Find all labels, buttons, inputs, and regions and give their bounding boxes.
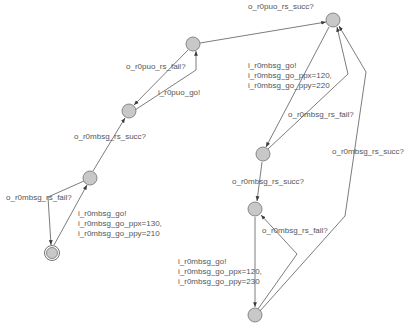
- edge-label-n7-n4: o_r0mbsg_rs_succ?: [332, 147, 404, 157]
- node-n7[interactable]: [248, 308, 262, 322]
- edge-n1-n2[interactable]: [93, 118, 125, 171]
- node-n2[interactable]: [122, 104, 136, 118]
- edge-label-n3-n4: o_r0puo_rs_succ?: [248, 2, 314, 12]
- edge-label-n6-n7: i_r0mbsg_go! i_r0mbsg_go_ppx=120, i_r0mb…: [178, 257, 262, 287]
- edge-label-n1-n2: o_r0mbsg_rs_succ?: [74, 132, 146, 142]
- node-n5[interactable]: [256, 147, 270, 161]
- node-n3[interactable]: [186, 37, 200, 51]
- node-n4[interactable]: [326, 13, 340, 27]
- edge-label-n1-n0: o_r0mbsg_rs_fail?: [6, 193, 72, 203]
- edge-label-n3-n2: o_r0puo_rs_fail?: [126, 62, 186, 72]
- edge-label-n5-n4: o_r0mbsg_rs_fail?: [288, 110, 354, 120]
- node-n0-initial[interactable]: [45, 246, 60, 261]
- edge-label-n5-n6: o_r0mbsg_rs_succ?: [232, 177, 304, 187]
- edge-label-n2-n3: i_r0puo_go!: [158, 88, 200, 98]
- edge-n2-n3[interactable]: [135, 51, 196, 110]
- node-n6[interactable]: [248, 202, 262, 216]
- edge-label-n7-n6: o_r0mbsg_rs_fail?: [262, 226, 328, 236]
- node-n1[interactable]: [83, 171, 97, 185]
- edge-n3-n4[interactable]: [200, 22, 326, 43]
- edge-label-n4-n5: i_r0mbsg_go! i_r0mbsg_go_ppx=120, i_r0mb…: [248, 61, 332, 91]
- edge-label-n0-n1: i_r0mbsg_go! i_r0mbsg_go_ppx=130, i_r0mb…: [78, 209, 162, 239]
